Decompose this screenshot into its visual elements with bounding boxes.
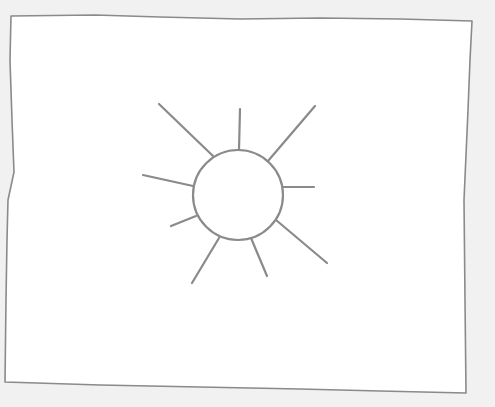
sun-ray [239,109,240,150]
sun-sketch-illustration [0,0,495,407]
sketch-canvas [0,0,495,407]
sun-icon [193,150,283,240]
